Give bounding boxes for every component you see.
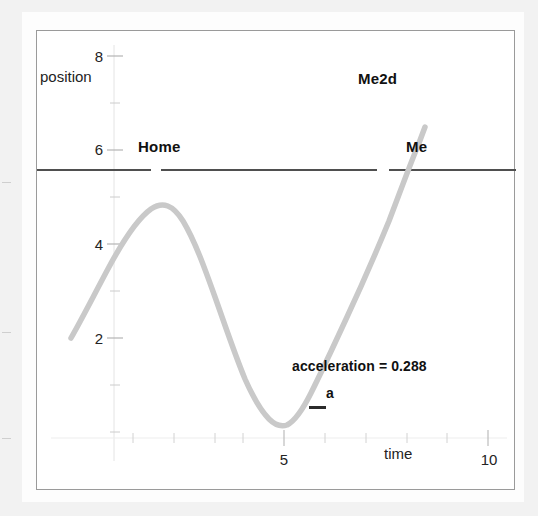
legend-key-a: a	[326, 386, 334, 400]
label-me: Me	[406, 139, 427, 154]
scan-margin-top	[0, 0, 538, 12]
y-tick-label-4: 4	[81, 237, 103, 252]
scan-speck	[2, 438, 11, 439]
x-axis-title: time	[384, 446, 412, 461]
label-home: Home	[138, 139, 180, 154]
y-tick-label-6: 6	[81, 142, 103, 157]
plot-area: 8 6 4 2 position 5 10 time Home Me Me2d …	[37, 31, 516, 491]
scan-speck	[2, 182, 11, 183]
data-curve-me2d	[71, 127, 425, 426]
label-me2d: Me2d	[358, 71, 397, 86]
scan-margin-bottom	[0, 502, 538, 516]
scanned-page: 8 6 4 2 position 5 10 time Home Me Me2d …	[0, 0, 538, 516]
legend-swatch-a	[309, 406, 326, 409]
x-tick-label-5: 5	[275, 452, 293, 467]
y-tick-label-2: 2	[81, 331, 103, 346]
scan-speck	[2, 332, 11, 333]
chart-frame: 8 6 4 2 position 5 10 time Home Me Me2d …	[36, 30, 515, 490]
y-tick-label-8: 8	[81, 49, 103, 64]
acceleration-annotation: acceleration = 0.288	[292, 359, 427, 373]
scan-margin-right	[524, 0, 538, 516]
plot-svg	[37, 31, 516, 491]
y-axis-title: position	[40, 69, 92, 84]
x-tick-label-10: 10	[477, 452, 501, 467]
